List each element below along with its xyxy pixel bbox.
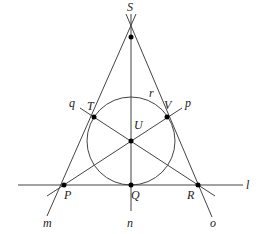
label-q: Q: [131, 188, 140, 202]
label-v: V: [164, 98, 173, 112]
point-q: [129, 183, 134, 188]
point-p: [62, 183, 67, 188]
geometry-diagram: S T V U P Q R r l m n o p q: [0, 0, 259, 234]
label-u: U: [134, 118, 144, 132]
label-line-q: q: [69, 96, 75, 110]
line-q: [80, 108, 215, 196]
point-t: [92, 115, 97, 120]
point-s: [129, 35, 134, 40]
label-line-n: n: [127, 216, 133, 230]
point-v: [165, 115, 170, 120]
line-p: [47, 108, 182, 196]
label-r: R: [186, 188, 195, 202]
label-line-m: m: [43, 216, 52, 230]
label-line-p: p: [184, 96, 191, 110]
point-r: [196, 183, 201, 188]
label-line-o: o: [210, 216, 216, 230]
label-radius: r: [149, 86, 154, 100]
label-line-l: l: [246, 178, 250, 192]
point-u: [129, 139, 134, 144]
label-s: S: [127, 0, 133, 14]
label-p: P: [63, 188, 72, 202]
